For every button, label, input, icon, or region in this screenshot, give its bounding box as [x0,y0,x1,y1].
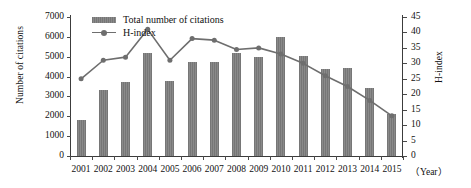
y-axis-right-tick-label: 40 [411,26,435,36]
y-axis-left-tick-label: 5000 [22,51,64,61]
y-axis-right-tick-mark [403,48,407,49]
x-axis-tick-mark [403,156,404,160]
line-swatch-icon [92,28,116,37]
y-axis-right-tick-mark [403,17,407,18]
legend-item-bars: Total number of citations [92,13,224,26]
hindex-marker-dot [367,98,372,103]
y-axis-right-tick-mark [403,63,407,64]
hindex-marker-dot [101,58,106,63]
x-axis-tick-mark [70,156,71,160]
hindex-markers [79,27,395,118]
y-axis-right-tick-label: 20 [411,88,435,98]
y-axis-right-tick-mark [403,94,407,95]
x-axis-tick-mark [270,156,271,160]
y-axis-right-tick-label: 10 [411,119,435,129]
hindex-marker-dot [234,47,239,52]
y-axis-left-tick-label: 7000 [22,11,64,21]
x-axis-tick-mark [225,156,226,160]
y-axis-left-title: Number of citations [15,6,25,124]
y-axis-right-tick-mark [403,125,407,126]
x-axis-tick-mark [381,156,382,160]
chart-legend: Total number of citations H-index [92,13,224,39]
legend-label-line: H-index [123,26,156,39]
line-swatch-dot-icon [101,30,107,36]
hindex-marker-dot [79,76,84,81]
y-axis-right-tick-mark [403,79,407,80]
y-axis-right-tick-label: 45 [411,11,435,21]
bar-swatch-icon [92,17,116,23]
hindex-marker-dot [301,61,306,66]
y-axis-left-tick-label: 2000 [22,110,64,120]
y-axis-right-tick-label: 35 [411,42,435,52]
y-axis-left-tick-label: 3000 [22,90,64,100]
hindex-marker-dot [123,55,128,60]
x-axis-tick-mark [314,156,315,160]
y-axis-right-tick-label: 0 [411,150,435,160]
legend-label-bars: Total number of citations [123,13,224,26]
y-axis-left-tick-label: 0 [22,150,64,160]
y-axis-left-tick-label: 1000 [22,130,64,140]
x-axis-tick-mark [181,156,182,160]
y-axis-right-title: H-index [434,28,444,106]
y-axis-right-tick-label: 25 [411,73,435,83]
hindex-marker-dot [345,84,350,89]
x-axis-tick-mark [292,156,293,160]
hindex-marker-dot [323,73,328,78]
hindex-marker-dot [389,113,394,118]
x-axis-tick-mark [137,156,138,160]
x-axis-tick-label: 2015 [372,164,412,174]
legend-item-line: H-index [92,26,224,39]
x-axis-unit-label: （Year） [410,164,448,178]
hindex-polyline [81,29,392,115]
y-axis-right-tick-label: 5 [411,135,435,145]
y-axis-right-tick-label: 30 [411,57,435,67]
x-axis-tick-mark [114,156,115,160]
y-axis-right-tick-mark [403,141,407,142]
x-axis-tick-mark [92,156,93,160]
hindex-marker-dot [167,58,172,63]
y-axis-left-tick-label: 4000 [22,71,64,81]
x-axis-tick-mark [159,156,160,160]
y-axis-left-tick-label: 6000 [22,31,64,41]
y-axis-right-tick-mark [403,110,407,111]
y-axis-right-tick-label: 15 [411,104,435,114]
x-axis-tick-mark [248,156,249,160]
x-axis-tick-mark [336,156,337,160]
x-axis-line [70,156,404,157]
y-axis-right-tick-mark [403,32,407,33]
x-axis-tick-mark [203,156,204,160]
hindex-marker-dot [256,45,261,50]
citations-hindex-chart: Number of citations H-index 010002000300… [0,0,471,188]
x-axis-tick-mark [359,156,360,160]
hindex-marker-dot [278,52,283,57]
